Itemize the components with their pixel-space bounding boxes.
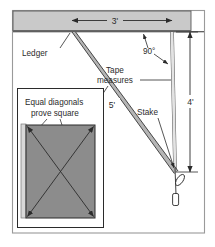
dimension-hypotenuse-label: 5': [109, 100, 116, 110]
inset-side-strip: [21, 124, 26, 218]
callout-right-angle-label: 90°: [143, 47, 155, 56]
dimension-vertical-rise-label: 4': [187, 97, 194, 107]
callout-tape-measures-label-line2: measures: [97, 76, 133, 85]
inset-caption-line1: Equal diagonals: [25, 98, 83, 107]
diagram-figure: 3' 4' 5': [0, 0, 215, 247]
callout-ledger-label: Ledger: [22, 49, 48, 58]
dimension-top-run-label: 3': [112, 16, 119, 26]
inset-equal-diagonals: Equal diagonals prove square: [18, 89, 104, 228]
callout-stake-label: Stake: [137, 108, 158, 117]
layout-squaring-diagram: 3' 4' 5': [0, 0, 215, 247]
dimension-hypotenuse: 5': [105, 98, 120, 111]
callout-tape-measures-label-line1: Tape: [106, 66, 124, 75]
stake-head: [173, 194, 179, 206]
inset-caption-line2: prove square: [31, 109, 79, 118]
